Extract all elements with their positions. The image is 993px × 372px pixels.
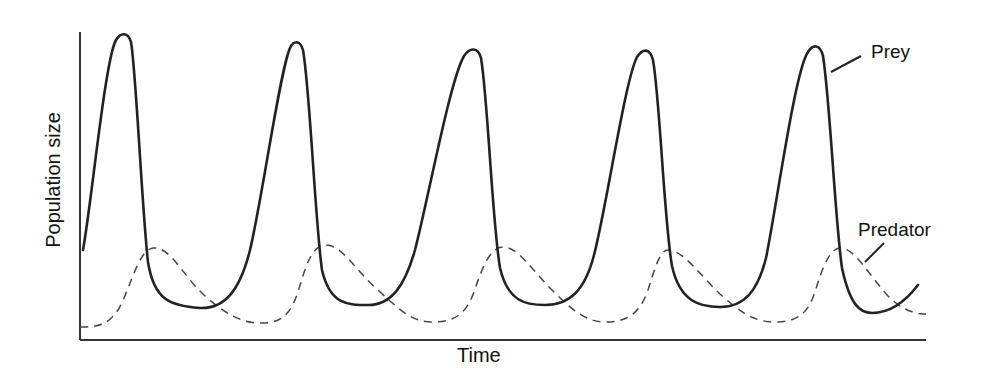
- predator-leader-line: [865, 243, 884, 262]
- prey-series-label: Prey: [871, 41, 910, 63]
- y-axis-label: Population size: [42, 112, 65, 248]
- predator-series-label: Predator: [858, 219, 931, 241]
- prey-series-line: [83, 34, 918, 313]
- predator-series-line: [80, 245, 926, 327]
- prey-leader-line: [831, 56, 861, 72]
- x-axis-label: Time: [457, 344, 501, 367]
- predator-prey-chart: [0, 0, 993, 372]
